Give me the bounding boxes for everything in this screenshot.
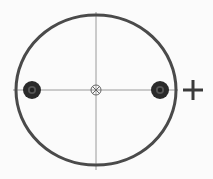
plus-icon (183, 80, 203, 100)
diagram-svg (0, 0, 213, 179)
diagram-canvas (0, 0, 213, 179)
right-hole-icon (151, 81, 169, 99)
left-hole-icon (23, 81, 41, 99)
